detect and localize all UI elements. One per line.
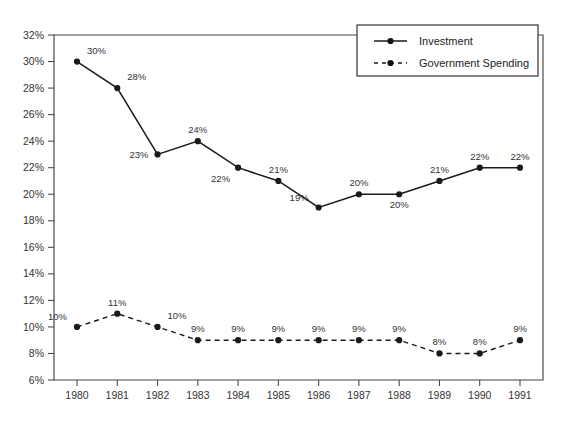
- data-point-marker: [74, 58, 80, 64]
- data-point-label: 21%: [430, 164, 450, 175]
- data-point-marker: [235, 337, 241, 343]
- line-chart: 6%8%10%12%14%16%18%20%22%24%26%28%30%32%…: [0, 0, 570, 425]
- legend-swatch-marker-1: [387, 60, 393, 66]
- data-point-marker: [477, 350, 483, 356]
- x-tick-label: 1988: [388, 389, 412, 401]
- data-point-marker: [275, 178, 281, 184]
- chart-legend: InvestmentGovernment Spending: [357, 25, 538, 76]
- data-point-label: 30%: [87, 45, 107, 56]
- data-point-label: 28%: [127, 71, 147, 82]
- data-point-label: 22%: [211, 173, 231, 184]
- x-tick-label: 1987: [347, 389, 371, 401]
- y-tick-label: 30%: [23, 55, 44, 67]
- data-point-label: 11%: [108, 297, 127, 308]
- y-tick-label: 18%: [23, 214, 44, 226]
- legend-swatch-marker-0: [387, 38, 393, 44]
- series-line-0: [77, 62, 520, 208]
- data-point-label: 9%: [191, 323, 205, 334]
- x-tick-label: 1980: [65, 389, 89, 401]
- y-tick-label: 16%: [23, 241, 44, 253]
- y-tick-label: 12%: [23, 294, 44, 306]
- data-point-marker: [436, 178, 442, 184]
- data-point-marker: [517, 337, 523, 343]
- data-point-marker: [114, 85, 120, 91]
- y-tick-label: 26%: [23, 108, 44, 120]
- x-tick-label: 1982: [146, 389, 170, 401]
- data-point-label: 24%: [188, 124, 208, 135]
- data-point-label: 9%: [392, 323, 406, 334]
- series-line-1: [77, 314, 520, 354]
- data-point-marker: [356, 191, 362, 197]
- data-point-marker: [517, 165, 523, 171]
- data-point-label: 9%: [513, 323, 527, 334]
- data-point-label: 22%: [470, 151, 490, 162]
- data-point-label: 9%: [271, 323, 285, 334]
- data-point-label: 23%: [130, 149, 150, 160]
- x-tick-label: 1981: [106, 389, 130, 401]
- data-point-marker: [154, 151, 160, 157]
- axis-lines: [54, 35, 543, 380]
- data-point-label: 21%: [269, 164, 289, 175]
- y-tick-label: 10%: [23, 321, 44, 333]
- y-tick-label: 28%: [23, 82, 44, 94]
- x-tick-label: 1990: [468, 389, 492, 401]
- x-axis-ticks: 1980198119821983198419851986198719881989…: [65, 380, 532, 401]
- y-axis-ticks: 6%8%10%12%14%16%18%20%22%24%26%28%30%32%: [23, 29, 54, 386]
- data-point-label: 9%: [352, 323, 366, 334]
- y-tick-label: 24%: [23, 135, 44, 147]
- legend-label-1: Government Spending: [419, 57, 529, 69]
- data-point-marker: [195, 337, 201, 343]
- data-point-marker: [275, 337, 281, 343]
- y-tick-label: 6%: [29, 374, 44, 386]
- data-point-marker: [114, 311, 120, 317]
- data-point-label: 8%: [433, 336, 447, 347]
- data-point-label: 22%: [510, 151, 530, 162]
- data-point-marker: [316, 337, 322, 343]
- x-tick-label: 1991: [508, 389, 532, 401]
- data-point-label: 20%: [390, 199, 410, 210]
- y-tick-label: 32%: [23, 29, 44, 41]
- data-point-marker: [436, 350, 442, 356]
- y-tick-label: 8%: [29, 347, 44, 359]
- data-point-marker: [396, 337, 402, 343]
- data-point-label: 19%: [290, 192, 310, 203]
- x-tick-label: 1985: [267, 389, 291, 401]
- x-tick-label: 1986: [307, 389, 331, 401]
- x-tick-label: 1989: [428, 389, 452, 401]
- y-tick-label: 20%: [23, 188, 44, 200]
- data-point-label: 20%: [349, 177, 369, 188]
- data-labels-layer: 30%28%23%24%22%21%19%20%20%21%22%22%10%1…: [48, 45, 530, 348]
- x-tick-label: 1984: [226, 389, 250, 401]
- series-layer: [74, 58, 523, 356]
- legend-label-0: Investment: [419, 35, 473, 47]
- data-point-marker: [235, 165, 241, 171]
- data-point-label: 8%: [473, 336, 487, 347]
- data-point-marker: [396, 191, 402, 197]
- data-point-label: 10%: [48, 311, 68, 322]
- data-point-marker: [316, 204, 322, 210]
- data-point-label: 9%: [231, 323, 245, 334]
- data-point-marker: [154, 324, 160, 330]
- data-point-marker: [477, 165, 483, 171]
- data-point-label: 9%: [312, 323, 326, 334]
- x-tick-label: 1983: [186, 389, 210, 401]
- chart-container: 6%8%10%12%14%16%18%20%22%24%26%28%30%32%…: [0, 0, 570, 425]
- y-tick-label: 22%: [23, 161, 44, 173]
- data-point-marker: [195, 138, 201, 144]
- data-point-marker: [356, 337, 362, 343]
- y-tick-label: 14%: [23, 267, 44, 279]
- data-point-label: 10%: [168, 310, 188, 321]
- data-point-marker: [74, 324, 80, 330]
